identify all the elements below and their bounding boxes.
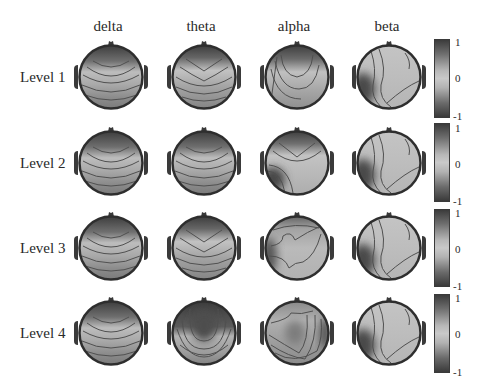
- colorbar-tick-min: -1: [453, 280, 462, 292]
- right-ear-icon: [422, 236, 426, 260]
- right-ear-icon: [237, 321, 241, 345]
- right-ear-icon: [422, 151, 426, 175]
- colorbar-level-2: [434, 123, 450, 202]
- row-label-level-2: Level 2: [20, 154, 80, 172]
- left-ear-icon: [260, 236, 264, 260]
- colorbar-tick-max: 1: [455, 292, 461, 304]
- topomap-alpha-level-4: [259, 293, 335, 373]
- topomap-alpha-level-1: [259, 37, 335, 117]
- left-ear-icon: [74, 236, 78, 260]
- topomap-beta-level-2: [351, 123, 427, 203]
- colorbar-level-4: [434, 294, 450, 373]
- colorbar-tick-zero: 0: [455, 158, 461, 170]
- topomap-theta-level-2: [166, 123, 242, 203]
- topomap-delta-level-3: [73, 208, 149, 288]
- colorbar-tick-max: 1: [455, 36, 461, 48]
- column-header-theta: theta: [171, 17, 231, 35]
- topomap-beta-level-1: [351, 37, 427, 117]
- right-ear-icon: [330, 236, 334, 260]
- colorbar-tick-min: -1: [453, 366, 462, 378]
- colorbar-tick-zero: 0: [455, 72, 461, 84]
- left-ear-icon: [352, 236, 356, 260]
- right-ear-icon: [422, 65, 426, 89]
- topomap-beta-level-3: [351, 208, 427, 288]
- topomap-alpha-level-2: [259, 123, 335, 203]
- left-ear-icon: [167, 321, 171, 345]
- right-ear-icon: [422, 321, 426, 345]
- colorbar-level-3: [434, 209, 450, 287]
- topomap-delta-level-1: [73, 37, 149, 117]
- left-ear-icon: [352, 65, 356, 89]
- colorbar-tick-max: 1: [455, 122, 461, 134]
- left-ear-icon: [352, 321, 356, 345]
- right-ear-icon: [237, 151, 241, 175]
- left-ear-icon: [167, 236, 171, 260]
- left-ear-icon: [260, 65, 264, 89]
- column-header-beta: beta: [357, 17, 417, 35]
- column-header-delta: delta: [78, 17, 138, 35]
- left-ear-icon: [74, 321, 78, 345]
- left-ear-icon: [167, 151, 171, 175]
- colorbar-tick-zero: 0: [455, 328, 461, 340]
- topomap-delta-level-2: [73, 123, 149, 203]
- left-ear-icon: [74, 65, 78, 89]
- topomap-theta-level-4: [166, 293, 242, 373]
- colorbar-tick-max: 1: [455, 207, 461, 219]
- topomap-delta-level-4: [73, 293, 149, 373]
- right-ear-icon: [144, 151, 148, 175]
- right-ear-icon: [330, 321, 334, 345]
- right-ear-icon: [144, 321, 148, 345]
- right-ear-icon: [237, 236, 241, 260]
- colorbar-tick-zero: 0: [455, 243, 461, 255]
- left-ear-icon: [260, 321, 264, 345]
- topomap-beta-level-4: [351, 293, 427, 373]
- row-label-level-4: Level 4: [20, 324, 80, 342]
- right-ear-icon: [144, 65, 148, 89]
- right-ear-icon: [330, 151, 334, 175]
- row-label-level-1: Level 1: [20, 68, 80, 86]
- left-ear-icon: [260, 151, 264, 175]
- right-ear-icon: [144, 236, 148, 260]
- topomap-theta-level-3: [166, 208, 242, 288]
- colorbar-tick-min: -1: [453, 195, 462, 207]
- right-ear-icon: [237, 65, 241, 89]
- right-ear-icon: [330, 65, 334, 89]
- left-ear-icon: [167, 65, 171, 89]
- left-ear-icon: [74, 151, 78, 175]
- topomap-theta-level-1: [166, 37, 242, 117]
- topomap-alpha-level-3: [259, 208, 335, 288]
- left-ear-icon: [352, 151, 356, 175]
- colorbar-tick-min: -1: [453, 110, 462, 122]
- row-label-level-3: Level 3: [20, 239, 80, 257]
- column-header-alpha: alpha: [264, 17, 324, 35]
- colorbar-level-1: [434, 39, 450, 118]
